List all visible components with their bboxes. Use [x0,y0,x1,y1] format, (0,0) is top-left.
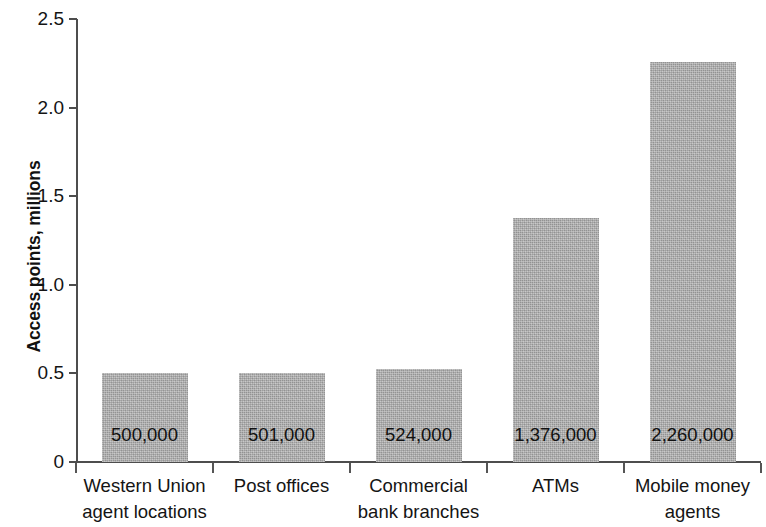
bar-value-label: 524,000 [350,426,487,445]
x-axis-category-label[interactable]: Commercialbank branches [344,473,493,525]
bar[interactable] [239,373,325,462]
x-axis-category-label-line: ATMs [481,473,630,499]
bar-value-label: 500,000 [76,426,213,445]
x-axis-category-label-line: Commercial [344,473,493,499]
x-axis-category-label[interactable]: ATMs [481,473,630,499]
x-axis-category-label[interactable]: Mobile moneyagents [618,473,766,525]
x-axis-category-label-line: agent locations [70,499,219,525]
x-axis-category-label-line: Western Union [70,473,219,499]
bar-value-label: 1,376,000 [487,426,624,445]
bar-value-label: 2,260,000 [624,426,761,445]
x-axis-category-label[interactable]: Post offices [207,473,356,499]
x-axis-category-label-line: Mobile money [618,473,766,499]
bar-chart: Access points, millions 00.51.01.52.02.5… [0,0,766,527]
bar[interactable] [650,62,736,462]
x-axis-category-label-line: Post offices [207,473,356,499]
bar[interactable] [102,373,188,462]
x-axis-category-label-line: bank branches [344,499,493,525]
bar[interactable] [376,369,462,462]
x-axis-category-label-line: agents [618,499,766,525]
bar-value-label: 501,000 [213,426,350,445]
bars-container: 500,000501,000524,0001,376,0002,260,000 [0,0,766,527]
x-axis-category-label[interactable]: Western Unionagent locations [70,473,219,525]
